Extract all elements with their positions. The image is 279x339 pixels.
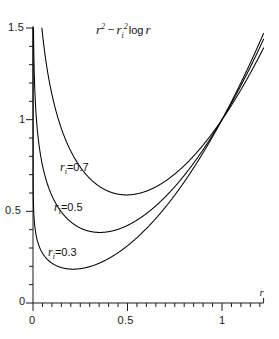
curve-label-symbol-0.7: ri <box>60 160 67 174</box>
chart-figure: 1.5 1 0.5 0 0 0.5 1 r r2−ri2logr ri=0.7 … <box>0 0 279 339</box>
curve-label-ri-0.3: ri=0.3 <box>48 245 77 261</box>
y-tick-label-0.5: 0.5 <box>5 204 21 216</box>
curve-label-ri-0.7: ri=0.7 <box>60 160 89 176</box>
x-tick-label-0.5: 0.5 <box>118 314 134 326</box>
curve-label-value-0.5: =0.5 <box>61 201 83 213</box>
curve-label-value-0.3: =0.3 <box>55 246 77 258</box>
title-minus: − <box>105 22 116 37</box>
x-tick-label-0: 0 <box>29 314 35 326</box>
curve-label-symbol-0.3: ri <box>48 245 55 259</box>
x-axis-label: r <box>260 286 264 298</box>
curves-layer <box>33 28 264 269</box>
y-tick-label-1.5: 1.5 <box>8 21 24 33</box>
y-tick-label-1: 1 <box>19 113 25 125</box>
chart-title: r2−ri2logr <box>96 22 150 40</box>
curve-ri-0.3 <box>33 28 264 269</box>
x-tick-label-1: 1 <box>219 314 225 326</box>
plot-area <box>0 0 279 339</box>
curve-label-symbol-0.5: ri <box>54 200 61 214</box>
title-r2: r <box>143 22 150 37</box>
curve-label-value-0.7: =0.7 <box>67 161 89 173</box>
title-log: log <box>128 24 144 36</box>
y-tick-label-0: 0 <box>19 295 25 307</box>
curve-label-ri-0.5: ri=0.5 <box>54 200 83 216</box>
title-sub-i: i <box>121 31 123 40</box>
